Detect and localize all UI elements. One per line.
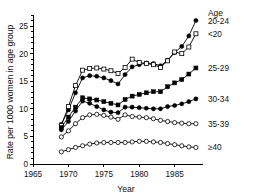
data-point (102, 113, 106, 117)
data-point (73, 122, 77, 126)
data-point (137, 139, 141, 143)
data-point (194, 32, 198, 36)
x-tick-label: 1975 (95, 170, 114, 179)
data-point (88, 67, 92, 71)
y-tick-label: 10 (19, 105, 29, 114)
x-tick-label: 1985 (166, 170, 185, 179)
data-point (194, 97, 198, 101)
legend: Age20-24<2025-2930-3435-39≥40 (208, 8, 229, 152)
data-point (95, 74, 99, 78)
data-point (123, 105, 127, 109)
data-point (109, 110, 113, 114)
data-point (95, 141, 99, 145)
data-point (66, 129, 70, 133)
data-point (173, 121, 177, 125)
data-point (102, 76, 106, 80)
data-point (151, 90, 155, 94)
chart-figure: 0510152025 19651970197519801985 Age20-24… (0, 0, 253, 196)
data-point (130, 105, 134, 109)
data-point (187, 145, 191, 149)
data-point (194, 122, 198, 126)
data-point (165, 141, 169, 145)
data-point (109, 140, 113, 144)
data-point (158, 140, 162, 144)
data-point (173, 103, 177, 107)
data-point (116, 117, 120, 121)
x-axis: 19651970197519801985 (24, 164, 203, 179)
data-point (194, 18, 198, 22)
data-point (80, 99, 84, 103)
data-point (130, 140, 134, 144)
data-point (109, 69, 113, 73)
data-point (73, 109, 77, 113)
x-axis-title: Year (117, 184, 135, 194)
legend-label-<20: <20 (208, 30, 222, 39)
data-point (95, 105, 99, 109)
data-point (137, 92, 141, 96)
data-point (81, 68, 85, 72)
data-point (180, 121, 184, 125)
data-point (159, 65, 163, 69)
data-point (116, 111, 120, 115)
data-point (59, 150, 63, 154)
legend-label-≥40: ≥40 (208, 143, 222, 152)
data-point (165, 119, 169, 123)
data-point (173, 81, 177, 85)
y-axis: 0510152025 (19, 15, 33, 169)
data-point (166, 59, 170, 63)
data-point (102, 108, 106, 112)
data-point (73, 145, 77, 149)
data-point (102, 67, 106, 71)
x-tick-label: 1980 (130, 170, 149, 179)
data-point (74, 84, 78, 88)
data-point (151, 63, 155, 67)
data-point (88, 113, 92, 117)
data-point (194, 145, 198, 149)
data-point (180, 78, 184, 82)
y-axis-title: Rate per 1000 women in age group (5, 24, 15, 159)
y-tick-label: 0 (23, 160, 28, 169)
data-point (187, 72, 191, 76)
series-30-34 (59, 97, 198, 132)
data-point (180, 102, 184, 106)
data-point (59, 135, 63, 139)
data-point (88, 101, 92, 105)
data-point (151, 140, 155, 144)
data-point (137, 115, 141, 119)
data-point (116, 82, 120, 86)
data-point (180, 144, 184, 148)
data-point (173, 143, 177, 147)
data-point (144, 106, 148, 110)
series-35-39 (59, 112, 198, 139)
line-chart-canvas: 0510152025 19651970197519801985 Age20-24… (0, 0, 253, 196)
data-point (88, 74, 92, 78)
legend-label-35-39: 35-39 (208, 120, 229, 129)
data-point (130, 57, 134, 61)
data-point (123, 73, 127, 77)
y-tick-label: 5 (23, 132, 28, 141)
data-point (130, 94, 134, 98)
x-axis-ticks: 19651970197519801985 (24, 164, 184, 179)
data-point (187, 34, 191, 38)
data-point (159, 90, 163, 94)
series-20-24 (59, 18, 198, 126)
series-≥40 (59, 139, 198, 154)
x-tick-label: 1970 (59, 170, 78, 179)
data-point (116, 140, 120, 144)
data-point (144, 139, 148, 143)
data-point (116, 71, 120, 75)
data-point (137, 60, 141, 64)
data-point (137, 106, 141, 110)
data-point (109, 115, 113, 119)
data-point (116, 103, 120, 107)
legend-label-20-24: 20-24 (208, 17, 229, 26)
data-point (151, 107, 155, 111)
data-point (80, 144, 84, 148)
data-point (123, 113, 127, 117)
data-point (80, 116, 84, 120)
y-tick-label: 15 (19, 77, 29, 86)
data-point (130, 114, 134, 118)
data-point (102, 100, 106, 104)
data-point (88, 97, 92, 101)
data-point (180, 52, 184, 56)
